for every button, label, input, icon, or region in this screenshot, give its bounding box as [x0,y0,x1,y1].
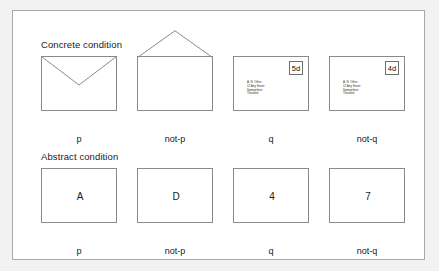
envelope-open [137,56,213,111]
abstract-label-q: q [233,246,309,256]
address-line: Thisshire [343,92,360,96]
card-face-value: A [42,169,118,224]
card-face-value: D [138,169,214,224]
envelope-address-q: A. N. Other 12 Any Street Somewhere This… [247,81,264,96]
card-7: 7 [329,168,405,223]
envelope-sealed [41,56,117,111]
card-d: D [137,168,213,223]
envelope-front-5d: 5d A. N. Other 12 Any Street Somewhere T… [233,56,309,111]
abstract-label-p: p [41,246,117,256]
section-heading-abstract: Abstract condition [41,151,118,162]
concrete-label-p: p [41,134,117,144]
figure-canvas: Concrete condition p not-p 5d A. N. Othe… [0,0,439,271]
envelope-flap-open-icon [137,30,213,58]
envelope-address-not-q: A. N. Other 12 Any Street Somewhere This… [343,81,360,96]
abstract-label-not-p: not-p [137,246,213,256]
card-face-value: 7 [330,169,406,224]
concrete-label-q: q [233,134,309,144]
card-face-value: 4 [234,169,310,224]
envelope-front-4d: 4d A. N. Other 12 Any Street Somewhere T… [329,56,405,111]
postage-stamp-4d: 4d [385,61,399,75]
abstract-label-not-q: not-q [329,246,405,256]
section-heading-concrete: Concrete condition [41,39,122,50]
address-line: Thisshire [247,92,264,96]
concrete-label-not-p: not-p [137,134,213,144]
figure-panel: Concrete condition p not-p 5d A. N. Othe… [12,10,425,260]
card-4: 4 [233,168,309,223]
postage-stamp-5d: 5d [289,61,303,75]
card-a: A [41,168,117,223]
concrete-label-not-q: not-q [329,134,405,144]
